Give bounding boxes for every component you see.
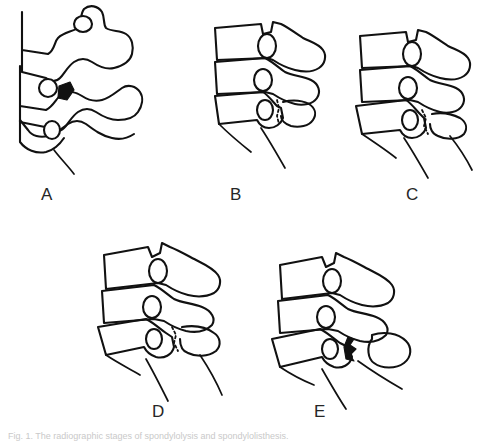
panel-label-b: B xyxy=(230,186,242,203)
panel-b-illustration xyxy=(205,16,345,176)
panel-c-illustration xyxy=(352,28,498,180)
panel-d-illustration xyxy=(96,243,252,403)
panel-e-drawing xyxy=(272,251,432,411)
figure-caption: Fig. 1. The radiographic stages of spond… xyxy=(8,431,488,442)
panel-a-drawing xyxy=(10,2,170,162)
panel-a-illustration xyxy=(10,2,170,162)
panel-c-drawing xyxy=(352,28,498,180)
panel-label-c: C xyxy=(406,186,418,203)
panel-b-drawing xyxy=(205,16,345,176)
panel-label-a: A xyxy=(41,186,53,203)
panel-e-illustration xyxy=(272,251,432,411)
panel-d-drawing xyxy=(96,243,252,403)
panel-label-e: E xyxy=(314,403,326,420)
panel-label-d: D xyxy=(152,403,164,420)
